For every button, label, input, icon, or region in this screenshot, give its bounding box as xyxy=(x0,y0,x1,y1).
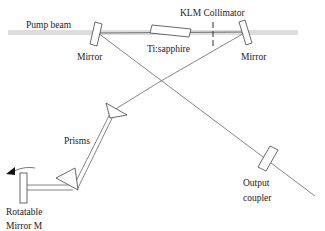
right-mirror-label: Mirror xyxy=(241,52,267,62)
laser-cavity-diagram: Pump beam Mirror Ti:sapphire KLM Collima… xyxy=(0,0,325,231)
ti-sapphire-crystal xyxy=(150,25,191,37)
output-coupler-label-1: Output xyxy=(243,178,270,188)
klm-label: KLM Collimator xyxy=(180,8,245,18)
left-mirror-label: Mirror xyxy=(77,52,103,62)
rotation-arrow xyxy=(14,167,35,171)
pump-beam-label: Pump beam xyxy=(26,20,72,30)
beam-to-output-coupler xyxy=(98,33,315,196)
beam-prism-link-2 xyxy=(77,110,116,190)
rotation-arrow-head xyxy=(6,167,15,175)
crystal-label: Ti:sapphire xyxy=(147,44,190,54)
upper-prism xyxy=(106,103,127,118)
lower-prism xyxy=(56,168,78,190)
output-coupler xyxy=(258,146,278,171)
prisms-label: Prisms xyxy=(64,136,90,146)
beam-prism-link-1 xyxy=(73,110,112,187)
output-coupler-label-2: coupler xyxy=(243,193,272,203)
beam-fold-to-prism xyxy=(114,81,161,110)
rotatable-mirror-label-2: Mirror M xyxy=(6,221,43,231)
beam-right-mirror-fold xyxy=(161,32,246,81)
rotatable-mirror xyxy=(20,173,27,203)
rotatable-mirror-label-1: Rotatable xyxy=(6,207,42,217)
